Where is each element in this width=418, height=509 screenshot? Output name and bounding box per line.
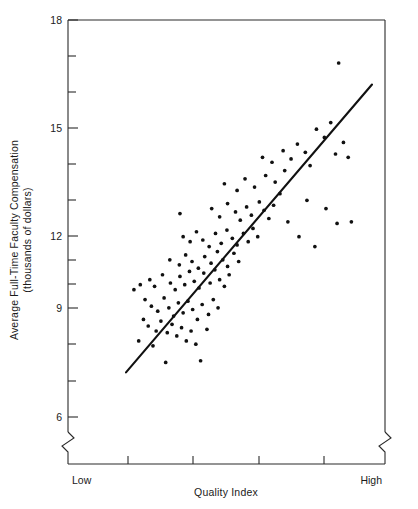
y-tick-label-6: 6 bbox=[56, 411, 62, 423]
scatter-point bbox=[146, 324, 150, 328]
scatter-point bbox=[194, 342, 198, 346]
scatter-point bbox=[251, 227, 255, 231]
scatter-point bbox=[209, 261, 213, 265]
scatter-point bbox=[297, 235, 301, 239]
scatter-point bbox=[197, 266, 201, 270]
y-tick-6: 6 bbox=[56, 411, 78, 423]
scatter-points-group bbox=[132, 61, 353, 364]
scatter-point bbox=[201, 238, 205, 242]
scatter-point bbox=[211, 298, 215, 302]
scatter-point bbox=[214, 232, 218, 236]
scatter-point bbox=[335, 222, 339, 226]
x-axis-ticks bbox=[128, 456, 324, 464]
scatter-point bbox=[168, 258, 172, 262]
chart-canvas: Average Full-Time Faculty Compensation (… bbox=[0, 0, 418, 509]
scatter-point bbox=[161, 273, 165, 277]
scatter-point bbox=[245, 205, 249, 209]
scatter-point bbox=[337, 61, 341, 65]
scatter-point bbox=[154, 329, 158, 333]
scatter-point bbox=[272, 203, 276, 207]
scatter-point bbox=[238, 218, 242, 222]
scatter-point bbox=[329, 121, 333, 125]
scatter-point bbox=[235, 189, 239, 193]
x-axis-label-high: High bbox=[360, 474, 382, 486]
scatter-point bbox=[208, 281, 212, 285]
y-axis-title-line1: Average Full-Time Faculty Compensation bbox=[8, 140, 20, 340]
scatter-point bbox=[202, 271, 206, 275]
scatter-point bbox=[138, 283, 142, 287]
scatter-point bbox=[156, 309, 160, 313]
scatter-point bbox=[264, 174, 268, 178]
scatter-point bbox=[173, 288, 177, 292]
scatter-point bbox=[189, 329, 193, 333]
scatter-point bbox=[167, 306, 171, 310]
scatter-point bbox=[246, 240, 250, 244]
y-axis-title: Average Full-Time Faculty Compensation (… bbox=[8, 140, 33, 340]
scatter-point bbox=[210, 207, 214, 211]
scatter-point bbox=[313, 245, 317, 249]
scatter-point bbox=[207, 245, 211, 249]
scatter-point bbox=[253, 185, 257, 189]
y-tick-12: 12 bbox=[50, 230, 78, 242]
scatter-point bbox=[350, 220, 354, 224]
scatter-point bbox=[178, 275, 182, 279]
y-tick-label-15: 15 bbox=[50, 122, 62, 134]
scatter-point bbox=[188, 270, 192, 274]
scatter-point bbox=[243, 177, 247, 181]
scatter-point bbox=[143, 298, 147, 302]
scatter-point bbox=[151, 344, 155, 348]
scatter-point bbox=[289, 157, 293, 161]
scatter-point bbox=[180, 326, 184, 330]
scatter-point bbox=[342, 141, 346, 145]
scatter-point bbox=[148, 278, 152, 282]
scatter-point bbox=[162, 296, 166, 300]
scatter-point bbox=[305, 198, 309, 202]
scatter-point bbox=[219, 241, 223, 245]
scatter-point bbox=[308, 164, 312, 168]
scatter-point bbox=[324, 207, 328, 211]
scatter-point bbox=[303, 150, 307, 154]
scatter-point bbox=[199, 359, 203, 363]
x-axis-title: Quality Index bbox=[194, 486, 258, 498]
scatter-point bbox=[150, 304, 154, 308]
scatter-point bbox=[334, 152, 338, 156]
scatter-point bbox=[203, 255, 207, 259]
scatter-point bbox=[256, 235, 260, 239]
scatter-point bbox=[218, 278, 222, 282]
y-axis-break-symbol bbox=[62, 432, 74, 464]
right-spine-break-symbol bbox=[379, 432, 391, 464]
scatter-point bbox=[270, 160, 274, 164]
scatter-point bbox=[196, 318, 200, 322]
y-tick-18: 18 bbox=[50, 14, 78, 26]
scatter-point bbox=[142, 318, 146, 322]
scatter-plot-figure: Average Full-Time Faculty Compensation (… bbox=[0, 0, 418, 509]
scatter-point bbox=[175, 334, 179, 338]
scatter-point bbox=[132, 288, 136, 292]
scatter-point bbox=[216, 250, 220, 254]
scatter-point bbox=[250, 213, 254, 217]
scatter-point bbox=[137, 339, 141, 343]
scatter-point bbox=[216, 306, 220, 310]
scatter-point bbox=[273, 180, 277, 184]
scatter-point bbox=[178, 212, 182, 216]
scatter-point bbox=[226, 265, 230, 269]
scatter-point bbox=[296, 142, 300, 146]
scatter-point bbox=[223, 182, 227, 186]
y-tick-label-12: 12 bbox=[50, 230, 62, 242]
y-tick-15: 15 bbox=[50, 122, 78, 134]
scatter-point bbox=[281, 149, 285, 153]
scatter-point bbox=[153, 284, 157, 288]
scatter-point bbox=[237, 260, 241, 264]
scatter-point bbox=[181, 235, 185, 239]
scatter-point bbox=[181, 311, 185, 315]
scatter-point bbox=[283, 169, 287, 173]
scatter-point bbox=[315, 127, 319, 131]
scatter-point bbox=[165, 331, 169, 335]
scatter-point bbox=[164, 361, 168, 365]
scatter-point bbox=[190, 260, 194, 264]
scatter-point bbox=[225, 228, 229, 232]
scatter-point bbox=[184, 339, 188, 343]
scatter-point bbox=[184, 253, 188, 257]
y-axis-ticks: 18 15 12 9 6 bbox=[50, 14, 78, 423]
scatter-point bbox=[223, 284, 227, 288]
